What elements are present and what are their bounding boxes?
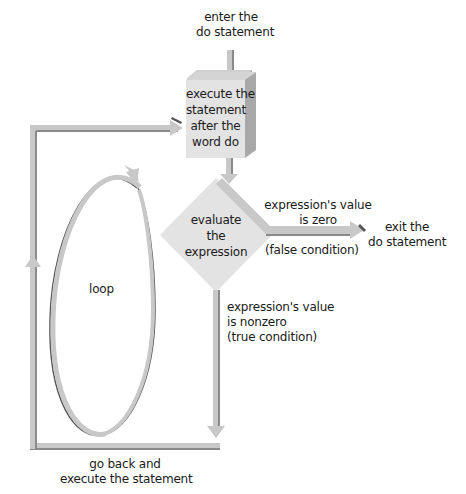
true-branch-label-line-2: is nonzero <box>227 315 334 330</box>
decision-label-line-3: expression <box>176 244 256 260</box>
return-left-line <box>25 125 41 449</box>
loop-ellipse <box>50 165 155 435</box>
false-branch-label: expression's value is zero <box>258 198 378 228</box>
decision-label-line-1: evaluate <box>176 212 256 228</box>
false-condition-text: (false condition) <box>265 243 359 258</box>
process-label-line-1: execute the <box>186 86 245 102</box>
process-label-line-4: word do <box>186 134 245 150</box>
process-label: execute the statement after the word do <box>186 86 245 150</box>
return-bottom-line <box>30 443 220 450</box>
exit-label: exit the do statement <box>368 220 446 250</box>
true-branch-label: expression's value is nonzero (true cond… <box>227 300 334 345</box>
enter-label: enter the do statement <box>196 10 266 40</box>
exit-label-line-2: do statement <box>368 235 446 250</box>
false-branch-label-line-2: is zero <box>258 213 378 228</box>
loop-label: loop <box>89 282 114 297</box>
go-back-label-line-2: execute the statement <box>60 472 190 487</box>
return-top-arrow <box>30 117 183 136</box>
true-branch-arrow <box>207 290 225 438</box>
process-label-line-3: after the <box>186 118 245 134</box>
true-branch-label-line-3: (true condition) <box>227 330 334 345</box>
decision-label-line-2: the <box>176 228 256 244</box>
true-branch-label-line-1: expression's value <box>227 300 334 315</box>
enter-label-line-1: enter the <box>196 10 266 25</box>
decision-label: evaluate the expression <box>176 212 256 260</box>
enter-label-line-2: do statement <box>196 25 266 40</box>
do-statement-flowchart: enter the do statement execute the state… <box>0 0 466 494</box>
process-label-line-2: statement <box>186 102 245 118</box>
false-condition-label: (false condition) <box>265 243 359 258</box>
go-back-label: go back and execute the statement <box>60 457 190 487</box>
false-branch-label-line-1: expression's value <box>258 198 378 213</box>
go-back-label-line-1: go back and <box>60 457 190 472</box>
exit-label-line-1: exit the <box>368 220 446 235</box>
loop-text: loop <box>89 282 114 296</box>
